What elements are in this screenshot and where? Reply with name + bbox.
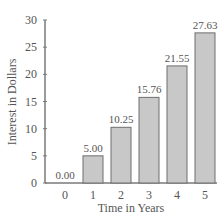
- x-tick-label: 3: [146, 188, 152, 202]
- y-tick-label: 20: [25, 67, 37, 81]
- x-tick-label: 5: [202, 188, 208, 202]
- y-tick-label: 25: [25, 40, 37, 54]
- data-label: 10.25: [109, 113, 134, 125]
- bar: [167, 66, 187, 183]
- y-tick-label: 30: [25, 13, 37, 27]
- y-axis-label: Interest in Dollars: [5, 47, 21, 157]
- data-label: 27.63: [193, 19, 218, 31]
- plot-area: 0510152025300.0005.00110.25215.76321.554…: [0, 0, 223, 223]
- bar: [83, 156, 103, 183]
- y-tick-label: 0: [31, 176, 37, 190]
- y-tick-label: 15: [25, 95, 37, 109]
- data-label: 0.00: [55, 169, 75, 181]
- x-tick-label: 1: [90, 188, 96, 202]
- bar: [111, 127, 131, 183]
- data-label: 21.55: [165, 52, 190, 64]
- x-axis-label: Time in Years: [45, 201, 217, 216]
- x-tick-label: 0: [62, 188, 68, 202]
- data-label: 15.76: [137, 83, 162, 95]
- y-tick-label: 10: [25, 122, 37, 136]
- data-label: 5.00: [83, 142, 103, 154]
- bar-chart: 0510152025300.0005.00110.25215.76321.554…: [0, 0, 223, 223]
- x-tick-label: 4: [174, 188, 180, 202]
- bar: [139, 97, 159, 183]
- bar: [195, 33, 215, 183]
- x-tick-label: 2: [118, 188, 124, 202]
- y-tick-label: 5: [31, 149, 37, 163]
